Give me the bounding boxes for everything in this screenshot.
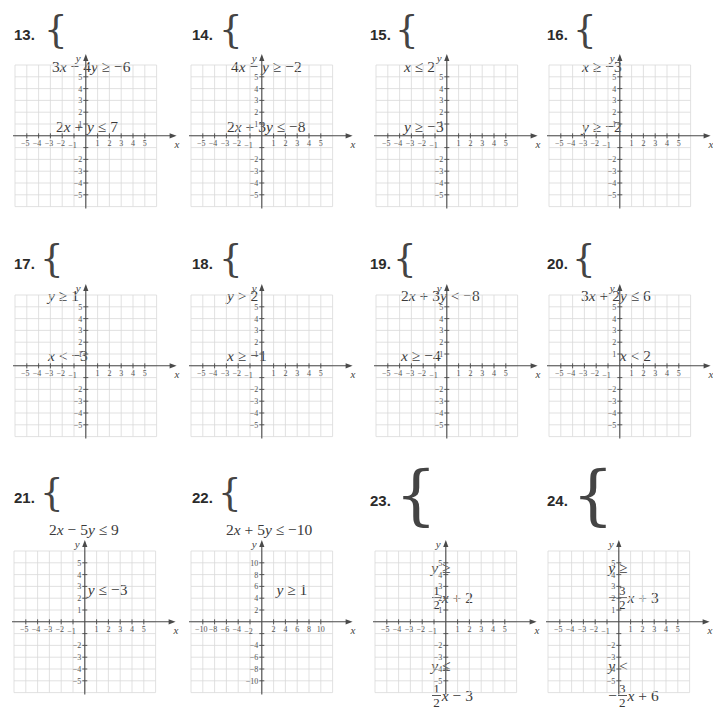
x-tick-label: 1 [456,625,460,634]
y-axis-arrow-icon [259,540,264,547]
coordinate-grid[interactable]: xy1−112−22−23−33−34−44−45−55−5 [375,540,535,700]
y-tick-label: −5 [73,677,82,686]
y-tick-label: −5 [435,191,444,200]
y-tick-label: −5 [607,677,616,686]
x-tick-label: −1 [244,141,253,150]
problem-14: 14. { 4x − y ≥ −2 2x + 3y ≤ −8 xy1−112−2… [178,0,358,225]
y-axis-arrow-icon [82,540,87,547]
coordinate-grid[interactable]: xy1−112−22−23−33−34−44−45−55−5 [376,54,536,214]
x-tick-label: −1 [601,627,610,636]
x-axis-label: x [350,624,356,636]
y-axis-label: y [436,52,442,64]
x-tick-label: −4 [567,139,576,148]
coordinate-grid[interactable]: xy1−112−22−23−33−34−44−45−55−5 [548,540,708,700]
y-tick-label: −4 [608,409,617,418]
coordinate-grid[interactable]: xy1−112−22−23−33−34−44−45−55−5 [549,54,709,214]
problem-number: 20. [547,255,568,272]
y-tick-label: −10 [246,677,259,686]
x-tick-label: −4 [394,369,403,378]
y-axis-label: y [74,538,80,550]
x-tick-label: 10 [317,625,325,634]
y-tick-label: −2 [74,385,83,394]
y-tick-label: 2 [254,108,258,117]
y-axis-arrow-icon [259,284,264,291]
y-axis-arrow-icon [83,54,88,61]
y-tick-label: −2 [608,155,617,164]
y-axis-arrow-icon [443,540,448,547]
y-tick-label: 1 [612,350,616,359]
y-axis-arrow-icon [617,284,622,291]
x-tick-label: 5 [677,369,681,378]
x-tick-label: 2 [107,139,111,148]
problem-number: 14. [192,26,213,43]
coordinate-grid[interactable]: xy1−112−22−23−33−34−44−45−55−5 [15,284,175,444]
coordinate-grid[interactable]: xy1−112−22−23−33−34−44−45−55−5 [549,284,709,444]
x-tick-label: −4 [567,369,576,378]
coordinate-grid[interactable]: xy2−224−44−46−66−68−88−810−1010−10 [191,540,351,700]
y-tick-label: 2 [438,594,442,603]
x-tick-label: −3 [221,139,230,148]
x-tick-label: 4 [131,369,135,378]
problem-13: 13. { 3x − 4y ≥ −6 2x + y ≤ 7 xy1−112−22… [0,0,178,225]
coordinate-grid[interactable]: xy1−112−22−23−33−34−44−45−55−5 [191,54,351,214]
y-tick-label: 1 [438,606,442,615]
x-tick-label: 4 [307,139,311,148]
problem-22: 22. { 2x + 5y ≤ −10 y ≥ 1 xy2−224−44−46−… [178,460,358,720]
y-tick-label: 4 [78,85,82,94]
y-tick-label: −4 [250,409,259,418]
y-axis-label: y [609,52,615,64]
x-tick-label: 1 [629,625,633,634]
x-tick-label: 3 [118,625,122,634]
x-tick-label: −4 [209,139,218,148]
y-tick-label: −2 [250,385,259,394]
x-tick-label: 2 [641,139,645,148]
y-tick-label: 3 [612,326,616,335]
x-axis-label: x [350,138,356,150]
y-axis-label: y [251,282,257,294]
y-tick-label: 3 [78,96,82,105]
x-tick-label: 5 [142,625,146,634]
x-tick-label: 4 [130,625,134,634]
x-tick-label: 2 [467,625,471,634]
y-axis-arrow-icon [259,54,264,61]
y-tick-label: 8 [254,571,258,580]
y-axis-label: y [435,538,441,550]
problem-number: 18. [192,255,213,272]
x-tick-label: −2 [244,627,253,636]
x-tick-label: −1 [244,371,253,380]
x-tick-label: −1 [68,141,77,150]
coordinate-grid[interactable]: xy1−112−22−23−33−34−44−45−55−5 [191,284,351,444]
x-tick-label: 5 [143,139,147,148]
problem-17: 17. { y ≥ 1 x < −3 xy1−112−22−23−33−34−4… [0,228,178,458]
problem-number: 21. [14,489,35,506]
coordinate-grid[interactable]: xy1−112−22−23−33−34−44−45−55−5 [376,284,536,444]
y-tick-label: −2 [607,641,616,650]
y-tick-label: −3 [73,653,82,662]
x-tick-label: 4 [307,369,311,378]
x-tick-label: −8 [209,625,218,634]
y-tick-label: −4 [434,665,443,674]
y-tick-label: 1 [254,350,258,359]
coordinate-grid[interactable]: xy1−112−22−23−33−34−44−45−55−5 [14,540,174,700]
x-tick-label: −4 [566,625,575,634]
y-tick-label: −2 [73,641,82,650]
y-tick-label: 5 [611,559,615,568]
y-axis-label: y [75,282,81,294]
x-tick-label: 2 [468,139,472,148]
y-tick-label: −2 [74,155,83,164]
y-tick-label: 10 [250,559,258,568]
y-tick-label: −3 [74,167,83,176]
x-tick-label: 1 [630,369,634,378]
y-tick-label: 2 [612,338,616,347]
y-tick-label: 1 [254,120,258,129]
x-tick-label: 2 [468,369,472,378]
x-tick-label: 1 [630,139,634,148]
problem-20: 20. { 3x + 2y ≤ 6 x < 2 xy1−112−22−23−33… [535,228,713,458]
y-tick-label: −3 [250,167,259,176]
x-tick-label: −3 [44,625,53,634]
x-tick-label: −2 [55,625,64,634]
y-tick-label: −4 [74,179,83,188]
coordinate-grid[interactable]: xy1−112−22−23−33−34−44−45−55−5 [15,54,175,214]
x-tick-label: −3 [406,139,415,148]
x-tick-label: 8 [307,625,311,634]
